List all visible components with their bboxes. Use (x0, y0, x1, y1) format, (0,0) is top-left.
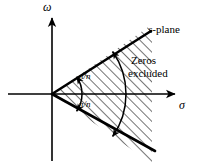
s-plane-label-suffix: -plane (152, 23, 179, 35)
angle-label-upper: π/n (79, 72, 91, 81)
zeros-excluded-label-line1: Zeros (131, 55, 156, 67)
sigma-axis-label: σ (179, 99, 185, 112)
s-plane-figure: ω σ s-plane Zeros excluded π/n π/n (0, 0, 199, 166)
s-plane-label: s-plane (148, 24, 180, 36)
zeros-excluded-label-line2: excluded (128, 68, 168, 80)
omega-axis-label: ω (43, 1, 51, 14)
angle-label-lower: π/n (79, 100, 91, 109)
